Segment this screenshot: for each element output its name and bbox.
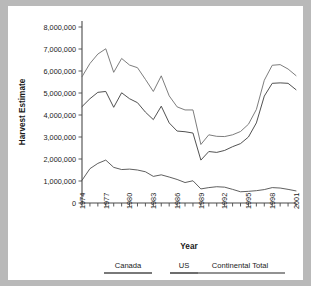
y-axis-group: 01,000,0002,000,0003,000,0004,000,0005,0… — [18, 21, 82, 208]
y-tick-label: 7,000,000 — [44, 45, 76, 54]
y-tick-label: 6,000,000 — [44, 67, 76, 76]
x-axis-title: Year — [180, 242, 198, 251]
y-tick-label: 3,000,000 — [44, 133, 76, 142]
x-axis-tick-labels: 1974197719801983198619891992199519982001 — [78, 193, 301, 209]
y-tick-label: 4,000,000 — [44, 111, 76, 120]
x-tick-label: 1974 — [78, 193, 87, 209]
x-tick-label: 1992 — [220, 193, 229, 209]
x-tick-label: 1977 — [102, 193, 111, 209]
y-axis-tick-labels: 01,000,0002,000,0003,000,0004,000,0005,0… — [44, 23, 76, 208]
y-tick-label: 0 — [72, 199, 76, 208]
chart-plot-area: 01,000,0002,000,0003,000,0004,000,0005,0… — [8, 6, 303, 280]
x-tick-label: 1995 — [244, 193, 253, 209]
x-tick-label: 2001 — [292, 193, 301, 209]
chart-figure: 01,000,0002,000,0003,000,0004,000,0005,0… — [8, 6, 303, 280]
x-axis-group: 1974197719801983198619891992199519982001… — [78, 193, 301, 251]
data-series-group — [82, 49, 296, 192]
y-tick-label: 2,000,000 — [44, 155, 76, 164]
legend-label-continental-total: Continental Total — [212, 261, 269, 270]
x-tick-label: 1983 — [149, 193, 158, 209]
x-tick-label: 1986 — [173, 193, 182, 209]
x-tick-label: 1989 — [197, 193, 206, 209]
series-line-canada — [82, 160, 296, 192]
legend-label-canada: Canada — [115, 261, 142, 270]
legend-label-us: US — [179, 261, 190, 270]
y-tick-label: 1,000,000 — [44, 177, 76, 186]
line-chart-svg: 01,000,0002,000,0003,000,0004,000,0005,0… — [8, 6, 303, 280]
y-tick-label: 5,000,000 — [44, 89, 76, 98]
x-tick-label: 1998 — [268, 193, 277, 209]
y-tick-label: 8,000,000 — [44, 23, 76, 32]
x-tick-label: 1980 — [125, 193, 134, 209]
chart-legend: CanadaUSContinental Total — [104, 261, 285, 273]
series-line-us — [82, 83, 296, 160]
y-axis-title: Harvest Estimate — [18, 78, 27, 145]
